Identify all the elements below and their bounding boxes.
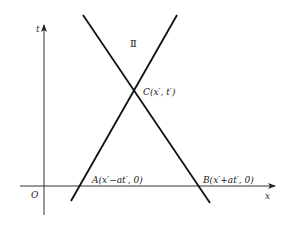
characteristic-line-a (71, 15, 177, 201)
characteristics-diagram: t x O Ⅱ C(x′, t′) A(x′−at′, 0) B(x′+at′,… (0, 0, 289, 229)
point-a-label: A(x′−at′, 0) (91, 175, 143, 185)
point-c-label: C(x′, t′) (143, 87, 176, 97)
x-axis-label: x (265, 191, 270, 201)
point-b-label: B(x′+at′, 0) (202, 175, 254, 185)
region-label: Ⅱ (130, 38, 137, 49)
t-axis-label: t (36, 24, 40, 34)
origin-label: O (31, 190, 39, 200)
